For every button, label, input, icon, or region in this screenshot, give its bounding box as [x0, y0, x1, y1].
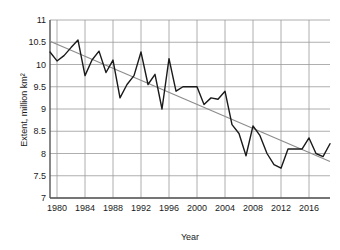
y-axis-tick-labels: 77.588.599.51010.511 [28, 15, 46, 203]
y-axis-title: Extent, million km² [19, 73, 29, 147]
x-tick-label: 2016 [299, 203, 319, 213]
y-tick-label: 7 [41, 193, 46, 203]
y-tick-label: 10.5 [28, 37, 46, 47]
line-chart: 77.588.599.51010.511 1980198419881992199… [0, 0, 340, 250]
x-tick-label: 1992 [131, 203, 151, 213]
y-tick-label: 8 [41, 149, 46, 159]
x-tick-label: 1980 [47, 203, 67, 213]
x-tick-label: 1996 [159, 203, 179, 213]
x-tick-label: 2012 [271, 203, 291, 213]
x-tick-label: 1984 [75, 203, 95, 213]
chart-container: 77.588.599.51010.511 1980198419881992199… [0, 0, 340, 250]
x-tick-label: 2000 [187, 203, 207, 213]
y-tick-label: 11 [37, 15, 46, 25]
x-tick-label: 1988 [103, 203, 123, 213]
x-tick-label: 2008 [243, 203, 263, 213]
y-tick-label: 7.5 [33, 171, 46, 181]
x-axis-title: Year [181, 232, 199, 242]
y-tick-label: 8.5 [33, 126, 46, 136]
x-axis-tick-labels: 1980198419881992199620002004200820122016 [47, 203, 319, 213]
y-tick-label: 10 [36, 60, 46, 70]
y-tick-label: 9.5 [33, 82, 46, 92]
data-series-extent [50, 40, 330, 168]
grid-lines [50, 20, 330, 198]
y-tick-label: 9 [41, 104, 46, 114]
x-tick-label: 2004 [215, 203, 235, 213]
